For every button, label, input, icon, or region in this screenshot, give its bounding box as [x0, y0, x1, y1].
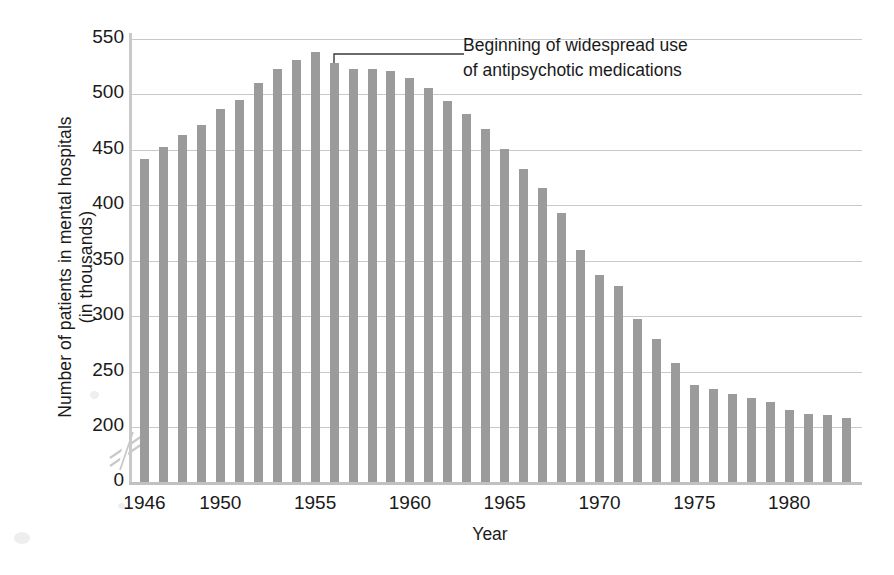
x-axis-title: Year [110, 524, 870, 545]
bar [557, 213, 566, 482]
bar [595, 275, 604, 482]
bar-chart-figure: Number of patients in mental hospitals (… [0, 0, 894, 575]
y-axis-tick-label: 250 [72, 359, 124, 381]
bar [235, 100, 244, 482]
y-axis-tick-label: 200 [72, 414, 124, 436]
bar [405, 78, 414, 482]
x-axis-tick-label: 1960 [389, 492, 431, 514]
annotation-leader-line [326, 51, 466, 75]
bar [273, 69, 282, 482]
y-axis-tick-label: 300 [72, 303, 124, 325]
bar [823, 415, 832, 482]
y-axis-line [129, 33, 132, 485]
bar [633, 319, 642, 482]
bar [311, 52, 320, 482]
bar [330, 63, 339, 482]
bar [671, 363, 680, 482]
bar [368, 69, 377, 482]
x-axis-tick-label: 1965 [484, 492, 526, 514]
bar [804, 414, 813, 482]
bar [614, 286, 623, 482]
bar [443, 101, 452, 482]
bar [178, 135, 187, 482]
y-axis-tick-label: 450 [72, 137, 124, 159]
bar [386, 71, 395, 482]
gridline [131, 94, 862, 95]
bar [140, 159, 149, 482]
bar [785, 410, 794, 482]
bar [519, 169, 528, 482]
bar [766, 402, 775, 482]
x-axis-line [129, 482, 862, 485]
x-axis-tick-label: 1955 [294, 492, 336, 514]
x-axis-tick-label: 1946 [123, 492, 165, 514]
annotation-label: Beginning of widespread use of antipsych… [463, 33, 688, 83]
x-axis-tick-label: 1970 [578, 492, 620, 514]
x-axis-tick-label: 1975 [673, 492, 715, 514]
bar [709, 389, 718, 482]
bar [254, 83, 263, 482]
bar [690, 385, 699, 482]
y-axis-tick-label: 0 [72, 469, 124, 491]
y-axis-tick-label: 350 [72, 248, 124, 270]
bar [462, 114, 471, 482]
bar [481, 129, 490, 482]
bar [652, 339, 661, 482]
bar [747, 398, 756, 482]
bar [197, 125, 206, 482]
y-axis-tick-labels: 5505004504003503002502000 [66, 33, 124, 485]
y-axis-tick-label: 500 [72, 81, 124, 103]
bar [216, 109, 225, 482]
bar [159, 147, 168, 482]
x-axis-tick-label: 1950 [199, 492, 241, 514]
y-axis-tick-label: 550 [72, 26, 124, 48]
page-artifact [14, 532, 30, 544]
bar [292, 60, 301, 482]
bar [842, 418, 851, 482]
y-axis-tick-label: 400 [72, 192, 124, 214]
bar [500, 149, 509, 482]
x-axis-tick-label: 1980 [768, 492, 810, 514]
bar [576, 250, 585, 482]
bar [538, 188, 547, 482]
plot-area [131, 33, 862, 485]
bar [728, 394, 737, 482]
bar [424, 88, 433, 482]
bar [349, 69, 358, 482]
